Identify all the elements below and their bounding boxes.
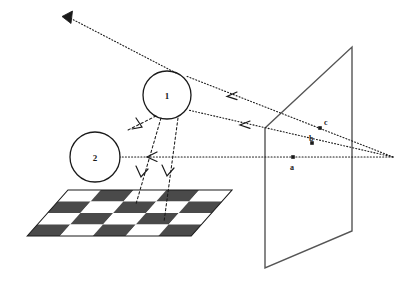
arrow-head-shadow-left <box>136 166 148 177</box>
ray-tracing-diagram: 1 2 c b a <box>0 0 406 282</box>
sphere-2-label: 2 <box>93 153 98 163</box>
sphere-1: 1 <box>143 71 191 119</box>
shadow-ray-arrowheads <box>132 118 174 177</box>
sphere-2: 2 <box>70 132 120 182</box>
point-label-b: b <box>309 134 314 143</box>
sphere-1-label: 1 <box>165 91 170 101</box>
arrow-head-shadow-right <box>162 165 174 176</box>
screen-sample-point-c: c <box>318 118 328 130</box>
diagram-canvas: 1 2 c b a <box>0 0 406 282</box>
screen-sample-point-b: b <box>309 134 314 145</box>
checkerboard-floor <box>27 190 232 236</box>
reflected-ray-upper-left <box>68 17 176 73</box>
point-label-c: c <box>324 118 328 127</box>
point-marker-a <box>291 155 295 159</box>
arrow-head-reflected-ray <box>62 11 73 24</box>
point-label-a: a <box>290 163 294 172</box>
shadow-ray-to-sphere-2 <box>128 116 156 130</box>
screen-sample-point-a: a <box>290 155 295 172</box>
view-ray-arrowheads <box>147 92 250 162</box>
point-marker-c <box>318 126 322 130</box>
